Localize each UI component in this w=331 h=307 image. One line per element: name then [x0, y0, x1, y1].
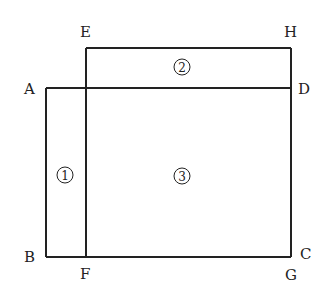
point-label-B: B — [24, 248, 35, 266]
point-label-E: E — [80, 23, 91, 41]
region-2-marker: 2 — [174, 59, 190, 75]
point-label-D: D — [298, 80, 310, 98]
point-label-G: G — [285, 266, 297, 284]
svg-text:1: 1 — [61, 169, 69, 183]
svg-text:2: 2 — [178, 61, 186, 75]
region-1-marker: 1 — [57, 167, 73, 183]
point-label-A: A — [23, 80, 35, 98]
point-label-C: C — [300, 245, 311, 263]
region-3-marker: 3 — [174, 168, 190, 184]
rectangles-diagram: E H A D B F C G 1 2 3 — [0, 0, 331, 307]
point-label-F: F — [80, 265, 90, 283]
svg-text:3: 3 — [178, 170, 186, 184]
point-label-H: H — [284, 23, 297, 41]
